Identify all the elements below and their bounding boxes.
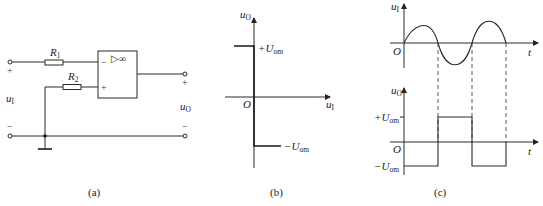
origin-label: O	[243, 98, 251, 110]
top-t-label: t	[528, 46, 532, 58]
bottom-neg-uom-label: −Uom	[374, 160, 399, 174]
panel-a-circuit: R1 R2 − + ▷∞ + uO − + uI − (a)	[6, 46, 192, 199]
panel-c-waveforms: uI t O uO t O +Uom −Uom (c)	[374, 0, 538, 199]
top-origin-label: O	[393, 45, 401, 57]
panel-b-transfer: uO uI O +Uom −Uom (b)	[225, 8, 335, 199]
noninverting-input-sign: +	[101, 82, 107, 93]
output-minus-sign: −	[182, 121, 188, 132]
caption-a: (a)	[88, 186, 101, 199]
resistor-r1	[45, 60, 63, 65]
opamp-symbol: ▷∞	[111, 53, 126, 64]
transfer-curve	[234, 46, 281, 146]
input-terminal-minus	[8, 134, 12, 138]
input-voltage-label: uI	[6, 92, 15, 106]
output-terminal-minus	[183, 134, 187, 138]
bottom-y-label: uO	[391, 84, 403, 98]
r1-label: R1	[49, 46, 61, 60]
r2-label: R2	[67, 70, 79, 84]
y-axis-label: uO	[240, 8, 252, 22]
neg-uom-label: −Uom	[284, 140, 309, 154]
comparator-figure: R1 R2 − + ▷∞ + uO − + uI − (a) uO	[0, 0, 543, 206]
caption-c: (c)	[434, 186, 447, 199]
caption-b: (b)	[270, 186, 283, 199]
bottom-origin-label: O	[393, 143, 401, 155]
inverting-input-sign: −	[101, 57, 107, 68]
output-voltage-label: uO	[180, 100, 192, 114]
input-terminal-plus	[8, 60, 12, 64]
input-minus-sign: −	[7, 121, 13, 132]
x-axis-label: uI	[326, 98, 335, 112]
bottom-pos-uom-label: +Uom	[374, 111, 399, 125]
resistor-r2	[63, 85, 81, 90]
input-plus-sign: +	[7, 65, 13, 76]
output-terminal-plus	[183, 72, 187, 76]
top-y-label: uI	[391, 0, 400, 14]
bottom-t-label: t	[528, 145, 532, 157]
output-plus-sign: +	[182, 77, 188, 88]
pos-uom-label: +Uom	[258, 42, 283, 56]
